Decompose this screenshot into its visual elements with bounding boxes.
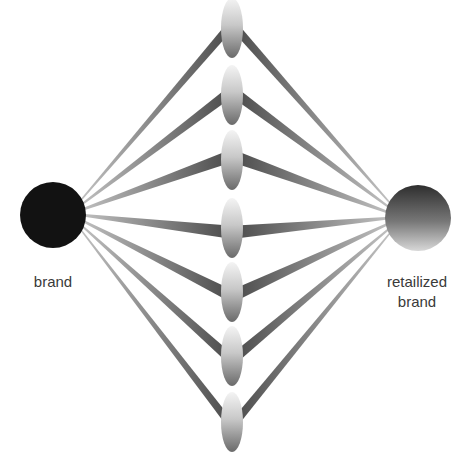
intermediate-node-5 <box>221 262 243 322</box>
band-right-2 <box>232 84 390 209</box>
brand-label: brand <box>18 272 88 292</box>
retailized-brand-label-line-2: brand <box>372 292 462 312</box>
brand-flow-diagram <box>0 0 467 468</box>
band-left-3 <box>81 149 232 211</box>
intermediate-nodes <box>221 0 243 452</box>
intermediate-node-3 <box>221 130 243 190</box>
band-left-2 <box>81 84 232 206</box>
band-right-6 <box>232 227 390 367</box>
retailized-brand-label: retailized brand <box>372 272 462 312</box>
intermediate-node-4 <box>221 198 243 258</box>
brand-circle <box>20 182 86 248</box>
intermediate-node-2 <box>221 65 243 125</box>
band-left-6 <box>81 224 232 367</box>
intermediate-node-6 <box>221 326 243 386</box>
retailized-brand-circle <box>385 185 451 251</box>
intermediate-node-1 <box>221 0 243 58</box>
intermediate-node-7 <box>221 392 243 452</box>
band-left-4 <box>81 214 232 239</box>
retailized-brand-label-line-1: retailized <box>372 272 462 292</box>
band-right-3 <box>232 149 390 214</box>
